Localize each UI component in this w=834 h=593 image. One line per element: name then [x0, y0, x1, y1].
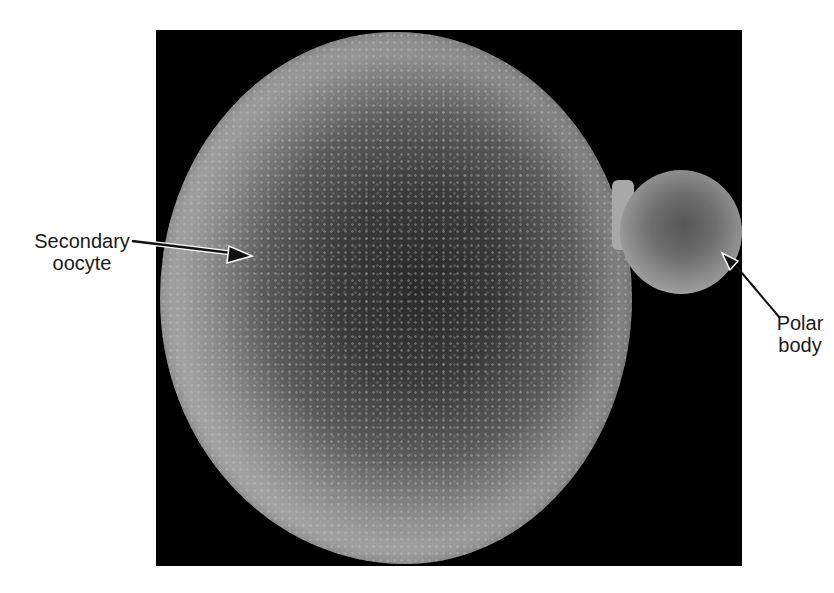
label-line: Secondary	[26, 230, 138, 252]
label-secondary-oocyte: Secondary oocyte	[26, 230, 138, 274]
label-line: body	[774, 334, 826, 356]
polar-body-cell	[620, 170, 742, 294]
label-line: Polar	[774, 312, 826, 334]
label-polar-body: Polar body	[774, 312, 826, 356]
label-line: oocyte	[26, 252, 138, 274]
secondary-oocyte-cell	[160, 32, 632, 564]
micrograph-panel	[156, 30, 742, 566]
